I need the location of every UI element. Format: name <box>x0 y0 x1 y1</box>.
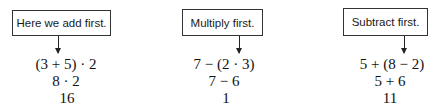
expression-step-1: (3 + 5) · 2 <box>36 56 97 72</box>
expression-result: 1 <box>222 90 230 106</box>
expression-step-2: 8 · 2 <box>52 73 80 89</box>
callout-box: Multiply first. <box>182 9 263 36</box>
expression-result: 11 <box>383 90 397 106</box>
expression-result: 16 <box>60 90 75 106</box>
expression-step-2: 7 − 6 <box>209 73 240 89</box>
arrow-down-icon <box>239 36 240 53</box>
arrow-down-icon <box>58 36 59 53</box>
arrow-down-icon <box>404 36 405 53</box>
callout-box: Here we add first. <box>12 10 111 36</box>
expression-step-1: 7 − (2 · 3) <box>194 56 255 72</box>
expression-step-1: 5 + (8 − 2) <box>360 56 424 72</box>
callout-box: Subtract first. <box>343 8 428 36</box>
expression-step-2: 5 + 6 <box>375 73 406 89</box>
